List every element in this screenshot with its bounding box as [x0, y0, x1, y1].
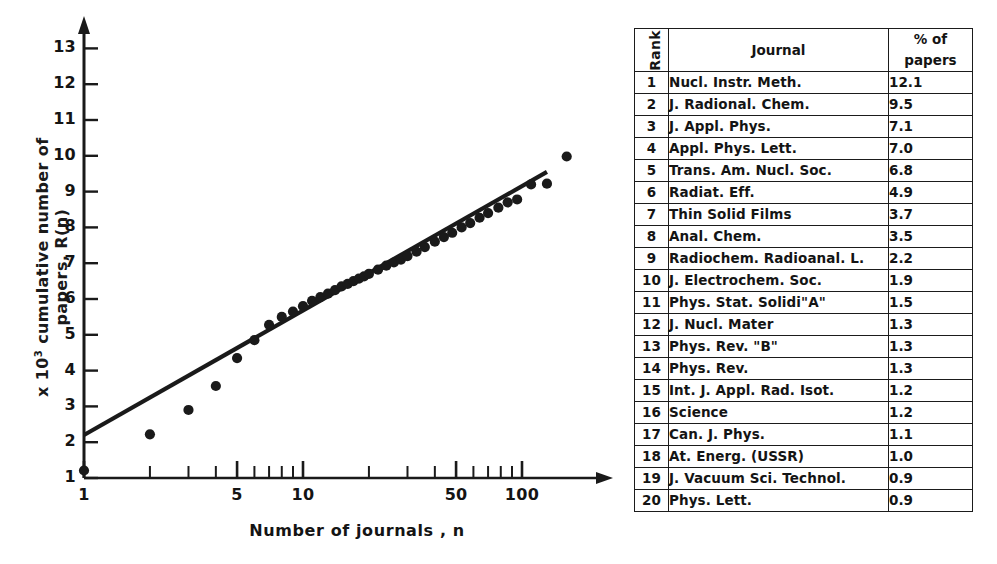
column-header-percent-line2: papers: [889, 50, 972, 71]
cell-percent: 7.1: [889, 116, 973, 138]
table-row: 19J. Vacuum Sci. Technol.0.9: [635, 468, 973, 490]
cell-rank: 13: [635, 336, 669, 358]
table-header-row: Rank Journal % of papers: [635, 29, 973, 72]
cell-percent: 3.5: [889, 226, 973, 248]
cell-journal: Phys. Rev. "B": [669, 336, 889, 358]
cell-percent: 0.9: [889, 468, 973, 490]
journal-ranking-table: Rank Journal % of papers 1Nucl. Instr. M…: [634, 28, 973, 512]
data-point: [277, 312, 287, 322]
cell-percent: 1.2: [889, 402, 973, 424]
cell-journal: Phys. Stat. Solidi"A": [669, 292, 889, 314]
column-header-rank-label: Rank: [645, 30, 666, 71]
data-point: [364, 269, 374, 279]
cell-journal: Nucl. Instr. Meth.: [669, 72, 889, 94]
column-header-percent-line1: % of: [889, 29, 972, 50]
axes-layer: [78, 16, 613, 484]
cell-percent: 1.3: [889, 358, 973, 380]
x-axis-tick-label: 50: [426, 485, 486, 504]
cell-rank: 15: [635, 380, 669, 402]
cell-rank: 9: [635, 248, 669, 270]
cell-journal: Science: [669, 402, 889, 424]
cell-journal: J. Appl. Phys.: [669, 116, 889, 138]
table-body: 1Nucl. Instr. Meth.12.12J. Radional. Che…: [635, 72, 973, 512]
y-axis-title: x 103 cumulative number of papers, R(n): [33, 107, 71, 427]
data-point: [288, 306, 298, 316]
cell-journal: Int. J. Appl. Rad. Isot.: [669, 380, 889, 402]
cell-rank: 11: [635, 292, 669, 314]
cell-percent: 1.2: [889, 380, 973, 402]
cell-rank: 12: [635, 314, 669, 336]
cell-percent: 1.3: [889, 314, 973, 336]
table-row: 14Phys. Rev.1.3: [635, 358, 973, 380]
data-point: [264, 320, 274, 330]
cell-rank: 2: [635, 94, 669, 116]
cell-rank: 18: [635, 446, 669, 468]
cell-journal: Appl. Phys. Lett.: [669, 138, 889, 160]
journal-ranking-table-wrapper: Rank Journal % of papers 1Nucl. Instr. M…: [634, 28, 972, 512]
cell-percent: 7.0: [889, 138, 973, 160]
y-axis-tick-label: 13: [42, 37, 76, 56]
table-row: 1Nucl. Instr. Meth.12.1: [635, 72, 973, 94]
y-axis-title-exponent: 3: [33, 350, 44, 357]
x-axis-tick-label: 100: [492, 485, 552, 504]
cell-percent: 4.9: [889, 182, 973, 204]
column-header-journal: Journal: [669, 29, 889, 72]
data-point: [79, 465, 89, 475]
cell-percent: 9.5: [889, 94, 973, 116]
cell-rank: 3: [635, 116, 669, 138]
table-row: 13Phys. Rev. "B"1.3: [635, 336, 973, 358]
cell-rank: 16: [635, 402, 669, 424]
cell-percent: 1.3: [889, 336, 973, 358]
data-point: [503, 197, 513, 207]
cell-journal: Anal. Chem.: [669, 226, 889, 248]
cell-journal: J. Electrochem. Soc.: [669, 270, 889, 292]
cell-rank: 6: [635, 182, 669, 204]
y-axis-title-prefix: x 10: [33, 357, 52, 397]
cell-percent: 0.9: [889, 490, 973, 512]
cell-journal: At. Energ. (USSR): [669, 446, 889, 468]
cell-percent: 2.2: [889, 248, 973, 270]
y-axis-tick-label: 12: [42, 73, 76, 92]
data-point: [298, 301, 308, 311]
x-axis-tick-label: 10: [273, 485, 333, 504]
table-row: 7Thin Solid Films3.7: [635, 204, 973, 226]
table-row: 11Phys. Stat. Solidi"A"1.5: [635, 292, 973, 314]
cell-rank: 8: [635, 226, 669, 248]
cell-rank: 17: [635, 424, 669, 446]
y-axis-tick-label: 2: [42, 431, 76, 450]
data-point: [183, 405, 193, 415]
cell-percent: 1.0: [889, 446, 973, 468]
cell-journal: J. Vacuum Sci. Technol.: [669, 468, 889, 490]
cell-rank: 19: [635, 468, 669, 490]
column-header-percent: % of papers: [889, 29, 973, 72]
cell-journal: Phys. Lett.: [669, 490, 889, 512]
data-point: [526, 179, 536, 189]
cell-percent: 1.1: [889, 424, 973, 446]
table-row: 6Radiat. Eff.4.9: [635, 182, 973, 204]
cell-rank: 5: [635, 160, 669, 182]
cell-journal: J. Nucl. Mater: [669, 314, 889, 336]
cell-journal: Radiochem. Radioanal. L.: [669, 248, 889, 270]
cell-journal: Thin Solid Films: [669, 204, 889, 226]
data-point: [465, 218, 475, 228]
table-row: 20Phys. Lett.0.9: [635, 490, 973, 512]
data-point: [232, 353, 242, 363]
cell-rank: 7: [635, 204, 669, 226]
table-row: 5Trans. Am. Nucl. Soc.6.8: [635, 160, 973, 182]
data-point: [402, 251, 412, 261]
table-row: 2J. Radional. Chem.9.5: [635, 94, 973, 116]
table-row: 17Can. J. Phys.1.1: [635, 424, 973, 446]
table-row: 16Science1.2: [635, 402, 973, 424]
data-point: [493, 203, 503, 213]
data-point: [447, 228, 457, 238]
table-header: Rank Journal % of papers: [635, 29, 973, 72]
cell-rank: 10: [635, 270, 669, 292]
cell-percent: 12.1: [889, 72, 973, 94]
bradford-plot-figure: 12345678910111213 151050100 x 103 cumula…: [0, 0, 625, 564]
table-row: 10J. Electrochem. Soc.1.9: [635, 270, 973, 292]
x-axis-tick-label: 5: [207, 485, 267, 504]
cell-rank: 1: [635, 72, 669, 94]
data-point: [430, 237, 440, 247]
cell-percent: 1.9: [889, 270, 973, 292]
x-axis-tick-label: 1: [54, 485, 114, 504]
